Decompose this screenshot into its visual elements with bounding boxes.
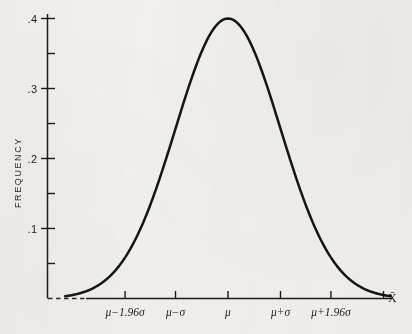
x-axis-end-label: X̄ [388, 291, 397, 305]
normal-distribution-figure: .4.3.2.1 FREQUENCY μ−1.96σμ−σμμ+σμ+1.96σ… [0, 0, 412, 334]
y-axis-title: FREQUENCY [13, 137, 23, 208]
normal-curve-line [65, 19, 391, 297]
y-axis-tick-label: .1 [28, 223, 38, 235]
x-axis-tick-label: μ−1.96σ [104, 306, 146, 319]
y-axis-tick-label: .2 [28, 153, 38, 165]
x-axis-tick-label: μ+1.96σ [310, 306, 352, 319]
normal-curve-plot: .4.3.2.1 FREQUENCY μ−1.96σμ−σμμ+σμ+1.96σ… [0, 0, 412, 334]
y-axis-tick-label: .3 [28, 83, 38, 95]
axes-group [48, 14, 393, 299]
y-axis-tick-label: .4 [28, 13, 38, 25]
x-axis-tick-label: μ−σ [165, 306, 187, 319]
x-axis-tick-label: μ+σ [270, 306, 292, 319]
y-axis-tick-labels: .4.3.2.1 [28, 13, 38, 235]
x-axis-tick-labels: μ−1.96σμ−σμμ+σμ+1.96σ [104, 306, 351, 319]
x-axis-tick-label: μ [224, 306, 231, 319]
